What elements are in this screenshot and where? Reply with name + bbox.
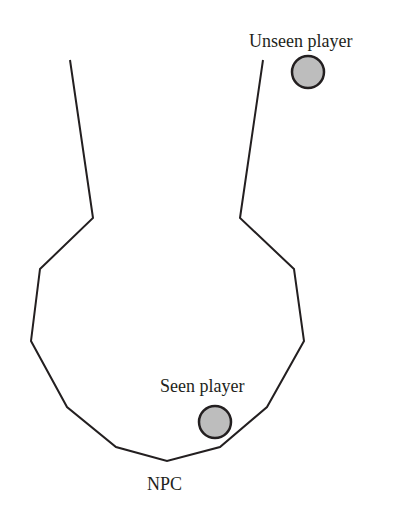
seen-player-label: Seen player xyxy=(160,376,244,396)
unseen-player-label: Unseen player xyxy=(249,31,352,51)
npc-label: NPC xyxy=(147,474,182,494)
unseen-player-icon xyxy=(292,56,324,88)
vision-cone-outline xyxy=(31,60,304,461)
seen-player-icon xyxy=(199,406,231,438)
npc-vision-diagram: Unseen player Seen player NPC xyxy=(0,0,394,514)
